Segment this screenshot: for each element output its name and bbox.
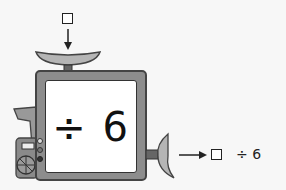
hopper-icon: [34, 50, 102, 72]
down-arrow-icon: [63, 29, 73, 51]
indicator-lights: [37, 138, 43, 162]
output-expression: ÷ 6: [236, 146, 261, 162]
input-box: [62, 13, 73, 24]
output-box: [211, 149, 222, 160]
right-arrow-icon: [179, 150, 209, 160]
machine-screen: ÷ 6: [45, 80, 137, 173]
output-spout-icon: [146, 132, 178, 180]
operation-label: ÷ 6: [52, 104, 130, 150]
